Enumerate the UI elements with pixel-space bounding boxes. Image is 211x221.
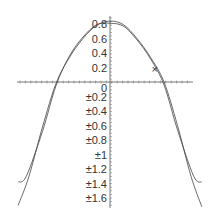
y-tick-label: 0.6 [92, 33, 107, 45]
chart: 0.80.60.40.20±0.2±0.4±0.6±0.8±1±1.2±1.4±… [0, 0, 211, 221]
y-tick-label: ±1.4 [86, 178, 107, 190]
y-tick-label: ±1.2 [86, 163, 107, 175]
y-tick-label: ±1.6 [86, 192, 107, 204]
y-tick-label: 0.4 [92, 47, 107, 59]
y-tick-label: 0.2 [92, 62, 107, 74]
cross-marker-icon: × [152, 63, 158, 75]
annotations: × [152, 63, 158, 75]
y-tick-label: ±1 [95, 149, 107, 161]
y-tick-label: ±0.4 [86, 105, 107, 117]
y-tick-label: ±0.2 [86, 91, 107, 103]
y-tick-label: ±0.6 [86, 120, 107, 132]
y-tick-labels: 0.80.60.40.20±0.2±0.4±0.6±0.8±1±1.2±1.4±… [86, 18, 107, 204]
y-tick-label: ±0.8 [86, 134, 107, 146]
